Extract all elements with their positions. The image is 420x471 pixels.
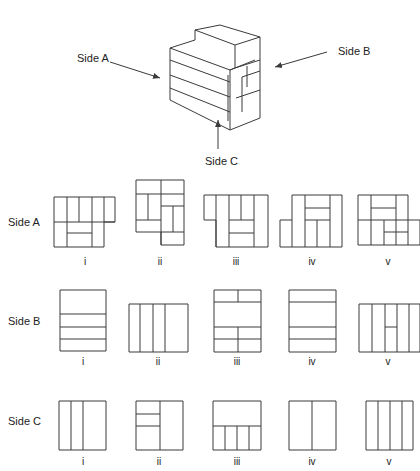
answer-option-iii[interactable]: iii [213,401,261,467]
answer-option-ii[interactable]: ii [136,180,184,267]
row-label: Side A [8,216,40,228]
block-edge [230,68,235,70]
block-edge [195,30,235,45]
option-numeral: iv [308,356,315,367]
block-views-diagram: Side A Side B Side C Side AiiiiiiivvSide… [0,0,420,471]
option-numeral: i [82,456,84,467]
answer-option-iv[interactable]: iv [280,195,342,267]
answer-option-iii[interactable]: iii [214,290,261,367]
option-outline [204,195,268,247]
option-numeral: ii [156,356,160,367]
option-numeral: iii [234,356,241,367]
option-numeral: ii [158,256,162,267]
option-outline [289,290,336,352]
option-row-side-a: Side Aiiiiiiivv [8,180,420,267]
row-label: Side C [8,415,41,427]
block-edge [170,48,230,70]
option-numeral: iv [308,456,315,467]
option-numeral: iv [308,256,315,267]
block-edge [170,100,230,130]
answer-option-iv[interactable]: iv [289,401,336,467]
option-outline [60,290,106,351]
option-outline [359,304,420,352]
option-numeral: v [386,356,391,367]
row-label: Side B [8,315,40,327]
answer-option-v[interactable]: v [366,401,413,467]
option-numeral: i [82,356,84,367]
option-row-side-c: Side Ciiiiiiivv [8,401,413,467]
answer-option-i[interactable]: i [54,197,115,267]
answer-option-v[interactable]: v [358,195,420,267]
arrow-side-a-icon [110,62,160,78]
answer-option-rows: Side AiiiiiiivvSide BiiiiiiivvSide Ciiii… [8,180,420,467]
option-numeral: iii [233,256,240,267]
option-row-side-b: Side Biiiiiiivv [8,290,420,367]
answer-option-ii[interactable]: ii [129,304,188,367]
arrow-side-b-icon [275,52,327,67]
block-edge [235,37,260,45]
block-edge [170,40,195,48]
isometric-block-stack [110,25,327,149]
answer-option-iii[interactable]: iii [204,195,268,267]
block-edge [170,88,230,112]
option-numeral: iii [234,456,241,467]
side-a-pointer-label: Side A [77,52,109,64]
block-edge [230,118,260,130]
option-outline [280,195,342,247]
side-c-pointer-label: Side C [205,155,238,167]
block-edge [195,25,220,30]
answer-option-iv[interactable]: iv [289,290,336,367]
option-numeral: v [387,456,392,467]
block-edge [220,25,260,37]
cube-side-labels: Side A Side B Side C [77,45,370,167]
option-numeral: i [84,256,86,267]
side-b-pointer-label: Side B [338,45,370,57]
option-numeral: ii [157,456,161,467]
block-edge [236,90,260,98]
answer-option-i[interactable]: i [59,401,106,467]
answer-option-i[interactable]: i [60,290,106,367]
option-outline [136,180,184,245]
diagram-canvas: Side A Side B Side C Side AiiiiiiivvSide… [0,0,420,471]
option-outline [129,304,188,352]
block-edge [242,71,260,77]
answer-option-v[interactable]: v [359,304,420,367]
answer-option-ii[interactable]: ii [136,401,183,467]
option-numeral: v [386,256,391,267]
